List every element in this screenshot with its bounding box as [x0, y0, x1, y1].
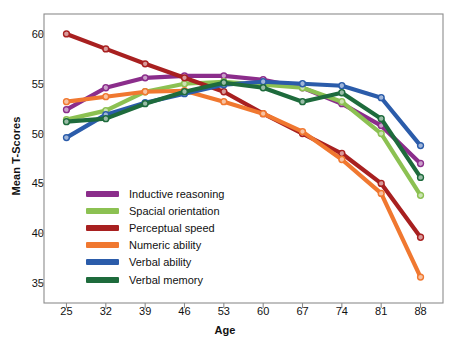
x-axis-tick-label: 53 — [204, 305, 244, 317]
data-point — [418, 143, 424, 149]
legend-item[interactable]: Numeric ability — [86, 237, 256, 254]
data-point — [378, 190, 384, 196]
data-point — [378, 131, 384, 137]
legend-item[interactable]: Verbal ability — [86, 254, 256, 271]
legend-item[interactable]: Spacial orientation — [86, 202, 256, 219]
x-axis-tick-label: 81 — [361, 305, 401, 317]
data-point — [339, 99, 345, 105]
data-point — [103, 46, 109, 52]
legend-color-swatch — [86, 242, 119, 248]
x-axis-tick-label: 74 — [322, 305, 362, 317]
data-point — [221, 99, 227, 105]
x-axis-title: Age — [0, 324, 450, 336]
legend-label: Inductive reasoning — [129, 188, 224, 200]
data-point — [142, 89, 148, 95]
legend-color-swatch — [86, 208, 119, 214]
x-axis-tick-label: 46 — [164, 305, 204, 317]
legend-item[interactable]: Inductive reasoning — [86, 185, 256, 202]
data-point — [64, 135, 70, 141]
data-point — [418, 274, 424, 280]
x-axis-tick-label: 25 — [46, 305, 86, 317]
legend-item[interactable]: Verbal memory — [86, 271, 256, 288]
data-point — [142, 61, 148, 67]
data-point — [221, 73, 227, 79]
data-point — [378, 181, 384, 187]
data-point — [142, 75, 148, 81]
data-point — [103, 85, 109, 91]
legend-label: Verbal memory — [129, 274, 203, 286]
data-point — [300, 99, 306, 105]
data-point — [418, 192, 424, 198]
data-point — [103, 94, 109, 100]
data-point — [260, 79, 266, 85]
legend-color-swatch — [86, 191, 119, 197]
x-axis-tick-label: 32 — [86, 305, 126, 317]
x-axis-tick-label: 88 — [401, 305, 441, 317]
data-point — [103, 116, 109, 122]
data-point — [221, 89, 227, 95]
chart-legend: Inductive reasoningSpacial orientationPe… — [86, 185, 256, 288]
data-point — [300, 129, 306, 135]
legend-label: Numeric ability — [129, 239, 201, 251]
data-point — [182, 75, 188, 81]
data-point — [64, 31, 70, 37]
legend-item[interactable]: Perceptual speed — [86, 219, 256, 236]
data-point — [300, 81, 306, 87]
x-axis-tick-label: 67 — [283, 305, 323, 317]
x-axis-tick-label: 60 — [243, 305, 283, 317]
legend-label: Perceptual speed — [129, 222, 215, 234]
plot-area — [0, 0, 450, 346]
data-point — [64, 99, 70, 105]
data-point — [378, 95, 384, 101]
data-point — [418, 161, 424, 167]
data-point — [339, 157, 345, 163]
data-point — [260, 111, 266, 117]
data-point — [182, 89, 188, 95]
data-point — [378, 116, 384, 122]
x-axis-tick-label: 39 — [125, 305, 165, 317]
data-point — [142, 101, 148, 107]
data-point — [418, 234, 424, 240]
legend-color-swatch — [86, 277, 119, 283]
data-point — [418, 175, 424, 181]
legend-label: Spacial orientation — [129, 205, 220, 217]
chart-container: Mean T-Scores 605550454035 2532394653606… — [0, 0, 450, 346]
legend-color-swatch — [86, 259, 119, 265]
data-point — [339, 90, 345, 96]
data-point — [182, 81, 188, 87]
data-point — [260, 85, 266, 91]
data-point — [339, 83, 345, 89]
legend-color-swatch — [86, 225, 119, 231]
data-point — [221, 80, 227, 86]
legend-label: Verbal ability — [129, 256, 191, 268]
data-point — [64, 119, 70, 125]
data-point — [64, 107, 70, 113]
